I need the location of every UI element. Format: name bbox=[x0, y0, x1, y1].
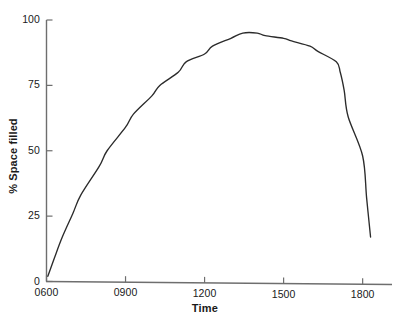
plot-area bbox=[0, 0, 396, 324]
chart-container: % Space filled 0255075100 06000900120015… bbox=[0, 0, 396, 324]
x-axis-tick-label: 1500 bbox=[264, 289, 304, 300]
x-axis-title-text: Time bbox=[192, 302, 218, 314]
x-axis-title: Time bbox=[160, 302, 250, 314]
y-axis-tick-label: 0 bbox=[14, 276, 40, 287]
axis-lines bbox=[46, 20, 392, 285]
data-series-line bbox=[48, 33, 371, 277]
y-axis-ticks bbox=[47, 20, 53, 282]
x-axis-tick-label: 1200 bbox=[185, 288, 225, 299]
x-axis-tick-label: 1800 bbox=[343, 289, 383, 300]
y-axis-title-text: % Space filled bbox=[7, 91, 19, 221]
x-axis-line bbox=[46, 282, 392, 285]
y-axis-tick-label: 75 bbox=[14, 79, 40, 90]
y-axis-tick-label: 100 bbox=[14, 14, 40, 25]
y-axis-tick-label: 50 bbox=[14, 145, 40, 156]
x-axis-tick-label: 0900 bbox=[106, 287, 146, 298]
y-axis-tick-label: 25 bbox=[14, 210, 40, 221]
x-axis-tick-label: 0600 bbox=[27, 287, 67, 298]
